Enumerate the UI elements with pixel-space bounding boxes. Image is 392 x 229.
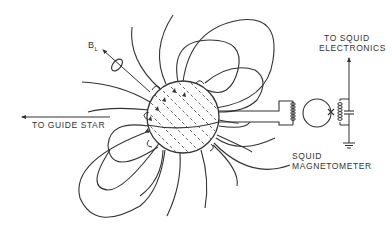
london-moment-label: BL: [88, 40, 99, 54]
capacitor-icon: [344, 111, 354, 114]
guide-star-label: TO GUIDE STAR: [32, 120, 105, 130]
ground-icon: [343, 125, 355, 148]
pickup-coil: [291, 103, 295, 121]
tank-coil: [338, 99, 349, 125]
squid-electronics-label-line2: ELECTRONICS: [319, 43, 386, 53]
squid-magnetometer-label-line1: SQUID: [292, 151, 322, 161]
squid-magnetometer-label-line2: MAGNETOMETER: [292, 161, 372, 171]
squid-ring: [303, 99, 331, 127]
squid-electronics-label-line1: TO SQUID: [324, 33, 370, 43]
spin-direction-icon: [109, 57, 124, 73]
